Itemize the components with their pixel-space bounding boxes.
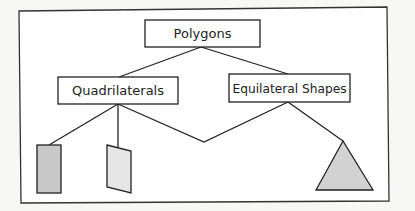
node-equilateral-shapes: Equilateral Shapes bbox=[229, 74, 350, 102]
node-label: Polygons bbox=[174, 26, 232, 41]
node-quadrilaterals: Quadrilaterals bbox=[58, 77, 178, 104]
rectangle-shape bbox=[37, 145, 61, 193]
node-polygons: Polygons bbox=[145, 20, 260, 47]
node-label: Equilateral Shapes bbox=[233, 81, 347, 96]
node-label: Quadrilaterals bbox=[72, 83, 164, 98]
parallelogram-shape bbox=[107, 145, 131, 193]
polygon-hierarchy-diagram: Polygons Quadrilaterals Equilateral Shap… bbox=[0, 0, 415, 211]
